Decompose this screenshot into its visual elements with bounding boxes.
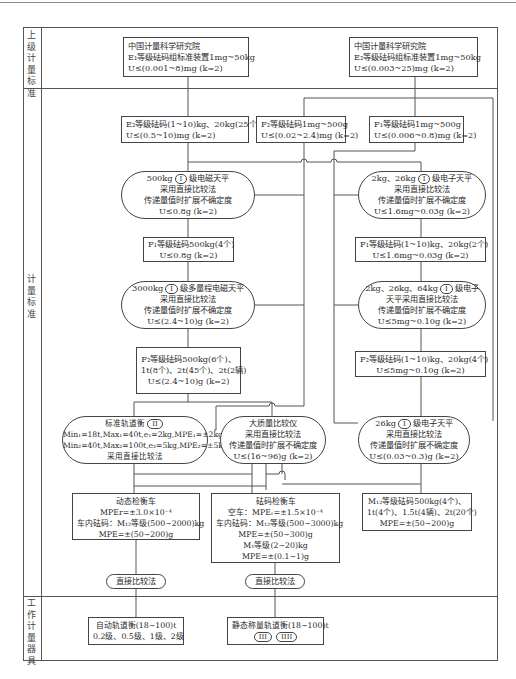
static-track-scale-box: 静态称量轨道衡(18~100)t IIIIIII xyxy=(227,617,324,645)
balance-64kg: 2kg、26kg、64kgI级电子 天平采用直接比较法 传递量值时扩展不确定度 … xyxy=(358,281,486,329)
accuracy-class-badge: I xyxy=(440,284,453,294)
balance-3000kg-line3: 传递量值时扩展不确定度 xyxy=(122,305,254,316)
upper-standard-e1: 中国计量科学研究院 E₁等级砝码组标准装置1mg~50kg U≤(0.001~8… xyxy=(123,37,249,77)
balance-500kg-line1: 500kgI级电磁天平 xyxy=(122,173,254,184)
weight-car-line6: MPE=±(0.1~1)g xyxy=(216,551,335,562)
balance-3000kg-line4: U≤(2.4~10)g (k=2) xyxy=(122,316,254,327)
weight-car-line3: 车内砝码：M₁₂等级(500~3000)kg xyxy=(216,518,335,529)
track-scale-line2: Min₁=18t,Max₁=40t,e₁=2kg,MPE₁=±2kg xyxy=(63,429,207,440)
balance-2kg-26kg-capacity: 2kg、26kg xyxy=(372,173,416,183)
mass-comparator-line4: U≤(16~96)g (k=2) xyxy=(221,451,325,462)
accuracy-class-badge: I xyxy=(418,174,431,184)
f1-500kg-box: F₁等级砝码500kg(4个) U≤0.8g (k=2) xyxy=(143,237,234,262)
mass-comparator-line1: 大质量比较仪 xyxy=(221,418,325,429)
m12-weights-line1: M₁₂等级砝码500kg(4个)、 xyxy=(367,496,467,507)
upper-e2-line1: 中国计量科学研究院 xyxy=(354,41,473,52)
dynamic-car-line3: 车内砝码：M₁₂等级(500~2000)kg xyxy=(77,518,195,529)
accuracy-class-badge: I xyxy=(175,174,188,184)
f2-500kg-box: F₂等级砝码500kg(6个)、 1t(8个)、2t(45个)、2t(2辆) U… xyxy=(136,347,241,394)
m12-weights-line3: MPE=±(50~200)g xyxy=(367,518,467,529)
e2-weights-box: E₂等级砝码(1~10)kg、20kg(25个) U≤(0.5~10)mg (k… xyxy=(121,116,249,143)
dynamic-car-line4: MPE=±(50~200)g xyxy=(77,529,195,540)
upper-e1-line2: E₁等级砝码组标准装置1mg~50kg xyxy=(128,52,244,63)
accuracy-class-badge: II xyxy=(147,419,163,429)
m12-weights-line2: 1t(4个)、1.5t(4辆)、2t(20个) xyxy=(367,507,467,518)
f1-small-weights-box: F₁等级砝码1mg~500g U≤(0.006~0.8)mg (k=2) xyxy=(369,116,464,143)
balance-2kg-26kg-line3: 传递量值时扩展不确定度 xyxy=(359,195,485,206)
f1-500kg-line2: U≤0.8g (k=2) xyxy=(148,250,229,261)
weight-car-line1: 砝码检衡车 xyxy=(216,496,335,507)
e2-weights-line2: U≤(0.5~10)mg (k=2) xyxy=(126,130,244,141)
balance-64kg-line1: 2kg、26kg、64kgI级电子 xyxy=(359,283,485,294)
balance-26kg-line1: 26kgI级电子天平 xyxy=(359,418,469,429)
dynamic-test-car-box: 动态检衡车 MPEr=±3.0×10⁻⁴ 车内砝码：M₁₂等级(500~2000… xyxy=(72,493,200,540)
track-scale-line1: 标准轨道衡II xyxy=(63,418,207,429)
balance-2kg-26kg-type: 级电子天平 xyxy=(432,173,472,183)
balance-64kg-line4: U≤5mg~0.10g (k=2) xyxy=(359,316,485,327)
direct-comparison-method-middle: 直接比较法 xyxy=(245,574,305,589)
balance-3000kg-line2: 采用直接比较法 xyxy=(122,294,254,305)
f2-1-10kg-line2: U≤5mg~0.10g (k=2) xyxy=(360,365,481,376)
balance-26kg-capacity: 26kg xyxy=(375,418,396,428)
standard-track-scale: 标准轨道衡II Min₁=18t,Max₁=40t,e₁=2kg,MPE₁=±2… xyxy=(62,416,208,464)
accuracy-class-badge-iiii: IIII xyxy=(276,632,297,642)
f1-1-10kg-line2: U≤1.6mg~0.03g (k=2) xyxy=(360,250,481,261)
weight-car-line4: MPE=±(50~300)g xyxy=(216,529,335,540)
balance-64kg-type: 级电子 xyxy=(455,283,479,293)
balance-2kg-26kg: 2kg、26kgI级电子天平 采用直接比较法 传递量值时扩展不确定度 U≤1.6… xyxy=(358,171,486,219)
static-track-classes: IIIIIII xyxy=(232,631,319,642)
balance-2kg-26kg-line2: 采用直接比较法 xyxy=(359,184,485,195)
weight-car-line5: M₁等级(2~20)kg xyxy=(216,540,335,551)
upper-e1-line1: 中国计量科学研究院 xyxy=(128,41,244,52)
balance-500kg-line2: 采用直接比较法 xyxy=(122,184,254,195)
dynamic-car-line2: MPEr=±3.0×10⁻⁴ xyxy=(77,507,195,518)
balance-500kg-line4: U≤0.8g (k=2) xyxy=(122,206,254,217)
f2-small-line2: U≤(0.02~2.4)mg (k=2) xyxy=(261,130,341,141)
mass-comparator: 大质量比较仪 采用直接比较法 传递量值时扩展不确定度 U≤(16~96)g (k… xyxy=(220,416,326,464)
upper-e2-line3: U≤(0.003~25)mg (k=2) xyxy=(354,63,473,74)
balance-500kg-type: 级电磁天平 xyxy=(189,173,229,183)
static-track-line1: 静态称量轨道衡(18~100)t xyxy=(232,620,319,631)
f2-small-line1: F₂等级砝码1mg~500g xyxy=(261,119,341,130)
f1-small-line2: U≤(0.006~0.8)mg (k=2) xyxy=(374,130,459,141)
track-scale-title: 标准轨道衡 xyxy=(105,419,145,428)
balance-500kg-capacity: 500kg xyxy=(147,173,173,183)
accuracy-class-badge-iii: III xyxy=(254,632,272,642)
track-scale-line3: Min₂=40t,Max₂=100t,e₂=5kg,MPE₂=±5kg xyxy=(63,440,207,451)
balance-3000kg: 3000kgI级多量程电磁天平 采用直接比较法 传递量值时扩展不确定度 U≤(2… xyxy=(121,281,255,329)
balance-26kg-line2: 采用直接比较法 xyxy=(359,429,469,440)
mass-comparator-line3: 传递量值时扩展不确定度 xyxy=(221,440,325,451)
automatic-track-scale-box: 自动轨道衡(18~100)t 0.2级、0.5级、1级、2级 xyxy=(88,617,184,645)
f1-1-10kg-line1: F₁等级砝码(1~10)kg、20kg(2个) xyxy=(360,239,481,250)
direct-comparison-method-left: 直接比较法 xyxy=(106,574,166,589)
track-scale-line4: 采用直接比较法 xyxy=(63,451,207,462)
upper-standard-e2: 中国计量科学研究院 E₂等级砝码组标准装置1mg~50kg U≤(0.003~2… xyxy=(349,37,478,77)
balance-2kg-26kg-line4: U≤1.6mg~0.03g (k=2) xyxy=(359,206,485,217)
balance-3000kg-line1: 3000kgI级多量程电磁天平 xyxy=(122,283,254,294)
balance-26kg-line4: U≤(0.03~0.3)g (k=2) xyxy=(359,451,469,462)
balance-64kg-line2: 天平采用直接比较法 xyxy=(359,294,485,305)
f1-500kg-line1: F₁等级砝码500kg(4个) xyxy=(148,239,229,250)
balance-3000kg-capacity: 3000kg xyxy=(132,283,163,293)
f2-small-weights-box: F₂等级砝码1mg~500g U≤(0.02~2.4)mg (k=2) xyxy=(256,116,346,143)
m12-weights-box: M₁₂等级砝码500kg(4个)、 1t(4个)、1.5t(4辆)、2t(20个… xyxy=(362,493,472,531)
balance-500kg: 500kgI级电磁天平 采用直接比较法 传递量值时扩展不确定度 U≤0.8g (… xyxy=(121,171,255,219)
upper-e1-line3: U≤(0.001~8)mg (k=2) xyxy=(128,63,244,74)
balance-3000kg-type: 级多量程电磁天平 xyxy=(180,283,244,293)
f1-small-line1: F₁等级砝码1mg~500g xyxy=(374,119,459,130)
f1-1-10kg-box: F₁等级砝码(1~10)kg、20kg(2个) U≤1.6mg~0.03g (k… xyxy=(355,237,486,262)
f2-500kg-line3: U≤(2.4~10)g (k=2) xyxy=(141,376,236,387)
balance-2kg-26kg-line1: 2kg、26kgI级电子天平 xyxy=(359,173,485,184)
upper-e2-line2: E₂等级砝码组标准装置1mg~50kg xyxy=(354,52,473,63)
e2-weights-line1: E₂等级砝码(1~10)kg、20kg(25个) xyxy=(126,119,244,130)
balance-26kg-line3: 传递量值时扩展不确定度 xyxy=(359,440,469,451)
accuracy-class-badge: I xyxy=(398,419,411,429)
f2-500kg-line1: F₂等级砝码500kg(6个)、 xyxy=(141,354,236,365)
balance-26kg-type: 级电子天平 xyxy=(413,418,453,428)
mass-comparator-line2: 采用直接比较法 xyxy=(221,429,325,440)
f2-1-10kg-box: F₂等级砝码(1~10)kg、20kg(4个) U≤5mg~0.10g (k=2… xyxy=(355,351,486,377)
balance-64kg-line3: 传递量值时扩展不确定度 xyxy=(359,305,485,316)
f2-1-10kg-line1: F₂等级砝码(1~10)kg、20kg(4个) xyxy=(360,354,481,365)
auto-track-line2: 0.2级、0.5级、1级、2级 xyxy=(93,631,179,642)
weight-test-car-box: 砝码检衡车 空车：MPEᵣ=±1.5×10⁻⁴ 车内砝码：M₁₂等级(500~3… xyxy=(211,493,340,563)
